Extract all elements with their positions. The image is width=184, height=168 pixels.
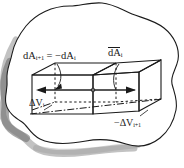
label-area-pair-equals: = −dA xyxy=(47,50,74,61)
label-volume-i-sub: i xyxy=(43,101,45,108)
label-area-vector-sub: i xyxy=(121,51,123,58)
label-volume-ip1-symbol: −ΔV xyxy=(114,117,133,128)
label-area-vector-symbol: dA xyxy=(108,47,121,58)
label-volume-ip1: −ΔVi+1 xyxy=(114,118,141,129)
label-area-vector: dAi xyxy=(108,48,122,59)
figure-canvas: dAi+1 = −dAi dAi ΔVi −ΔVi+1 xyxy=(0,0,184,168)
label-area-pair-sub-lead: i+1 xyxy=(36,54,44,61)
label-area-vector-pair: dAi+1 = −dAi xyxy=(23,51,76,62)
figure-vector-graphic xyxy=(0,0,184,168)
label-area-vector-symbol-wrap: dA xyxy=(108,48,121,59)
label-area-pair-sub-tail: i xyxy=(74,54,76,61)
irregular-closed-volume-outline xyxy=(5,3,178,146)
label-volume-ip1-sub: i+1 xyxy=(133,121,141,128)
label-area-pair-lead: dA xyxy=(23,50,36,61)
vector-overbar-icon xyxy=(108,47,120,48)
label-volume-i: ΔVi xyxy=(29,98,44,109)
label-volume-i-symbol: ΔV xyxy=(29,97,43,108)
